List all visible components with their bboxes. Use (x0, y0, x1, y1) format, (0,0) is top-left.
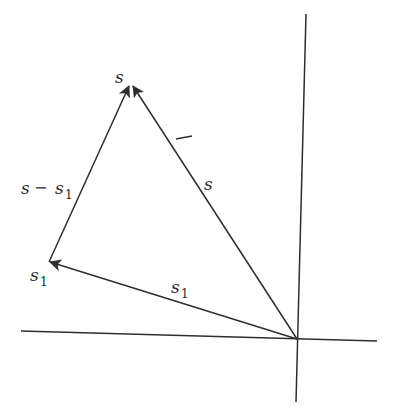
svg-text:1: 1 (40, 275, 48, 289)
svg-text:s: s (30, 265, 39, 285)
difference-label: s − s 1 (21, 178, 73, 202)
vector-s-label: s (204, 174, 213, 194)
vector-s1-label: s 1 (171, 277, 189, 301)
svg-text:s: s (55, 178, 64, 198)
svg-text:s: s (171, 277, 180, 297)
apex-label: s (115, 67, 124, 87)
vector-diagram: s s s 1 s 1 s − s 1 (0, 0, 399, 413)
svg-text:1: 1 (181, 287, 189, 301)
svg-text:s: s (21, 178, 30, 198)
dash-mark (176, 136, 192, 139)
vector-s-minus-s1-arrow (49, 86, 129, 262)
vertical-axis (296, 14, 306, 402)
point-s1-label: s 1 (30, 265, 48, 289)
vector-s1-arrow (50, 262, 297, 339)
svg-text:1: 1 (65, 188, 73, 202)
vector-s-arrow (133, 86, 297, 339)
svg-text:−: − (34, 178, 47, 197)
horizontal-axis (21, 331, 377, 341)
